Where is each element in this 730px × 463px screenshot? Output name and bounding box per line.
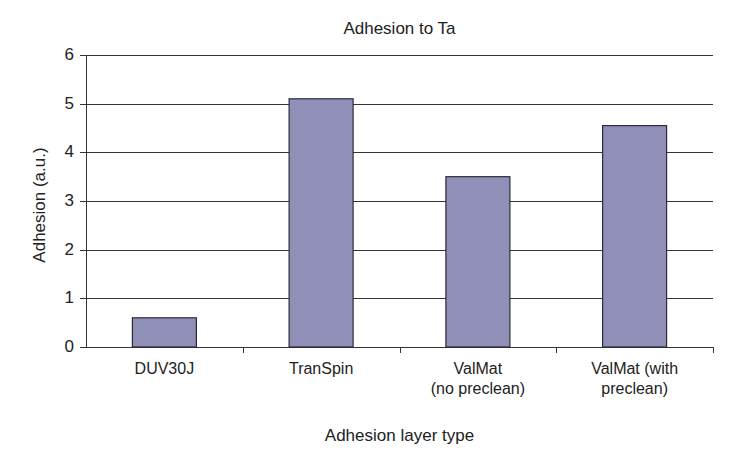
y-tick-label: 1 [44, 289, 74, 307]
y-tick-label: 0 [44, 338, 74, 356]
x-tick-label: DUV30J [89, 359, 239, 379]
bars [132, 99, 666, 347]
x-tick-label: TranSpin [246, 359, 396, 379]
y-tick-label: 6 [44, 46, 74, 64]
bar [132, 318, 196, 347]
y-tick-label: 2 [44, 241, 74, 259]
y-tick-label: 3 [44, 192, 74, 210]
x-tick-label: ValMat (with preclean) [560, 359, 710, 399]
bar [446, 177, 510, 347]
y-tick-label: 5 [44, 95, 74, 113]
x-tick-label: ValMat (no preclean) [403, 359, 553, 399]
bar [289, 99, 353, 347]
y-tick-label: 4 [44, 143, 74, 161]
bar [603, 126, 667, 347]
